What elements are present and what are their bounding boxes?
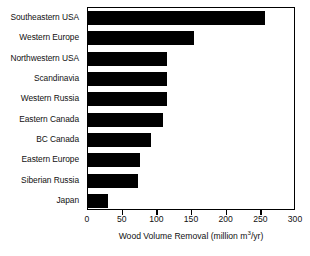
- x-axis-tick-labels: 050100150200250300: [0, 214, 310, 226]
- category-label: Scandinavia: [0, 73, 79, 83]
- bar: [88, 153, 140, 167]
- bars-layer: [88, 8, 294, 209]
- category-label: Japan: [0, 195, 79, 205]
- category-label: Southeastern USA: [0, 12, 79, 22]
- bar: [88, 113, 163, 127]
- category-label: Western Europe: [0, 32, 79, 42]
- category-label: Siberian Russia: [0, 175, 79, 185]
- bar: [88, 72, 167, 86]
- x-tick-label: 100: [149, 214, 163, 225]
- category-label: BC Canada: [0, 134, 79, 144]
- category-label: Western Russia: [0, 93, 79, 103]
- category-label: Northwestern USA: [0, 53, 79, 63]
- x-axis-title: Wood Volume Removal (million m3/yr): [87, 230, 295, 242]
- x-tick-label: 0: [85, 214, 90, 225]
- x-axis-title-prefix: Wood Volume Removal (million m: [119, 231, 248, 241]
- bar: [88, 174, 138, 188]
- plot-area: [87, 7, 295, 210]
- bar: [88, 133, 151, 147]
- bar: [88, 52, 167, 66]
- category-label: Eastern Europe: [0, 154, 79, 164]
- x-axis-title-suffix: /yr): [251, 231, 263, 241]
- bar-chart: Southeastern USAWestern EuropeNorthweste…: [0, 0, 310, 256]
- x-tick-label: 50: [117, 214, 127, 225]
- bar: [88, 11, 265, 25]
- category-axis: Southeastern USAWestern EuropeNorthweste…: [0, 7, 83, 210]
- bar: [88, 31, 194, 45]
- x-tick-label: 200: [218, 214, 232, 225]
- x-tick-label: 250: [253, 214, 267, 225]
- category-label: Eastern Canada: [0, 114, 79, 124]
- x-tick-label: 150: [184, 214, 198, 225]
- bar: [88, 194, 108, 208]
- bar: [88, 92, 167, 106]
- x-tick-label: 300: [288, 214, 302, 225]
